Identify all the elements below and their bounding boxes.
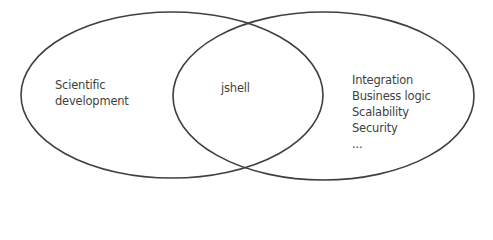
right-set-item: ... (352, 136, 431, 152)
left-set-label-line-1: Scientific (55, 77, 129, 93)
left-set-label: Scientific development (55, 77, 129, 109)
right-set-item-list: Integration Business logic Scalability S… (352, 72, 431, 152)
right-set-item: Security (352, 120, 431, 136)
right-set-item: Business logic (352, 88, 431, 104)
right-set-item: Scalability (352, 104, 431, 120)
right-set-item: Integration (352, 72, 431, 88)
intersection-label: jshell (221, 80, 250, 96)
left-set-label-line-2: development (55, 93, 129, 109)
